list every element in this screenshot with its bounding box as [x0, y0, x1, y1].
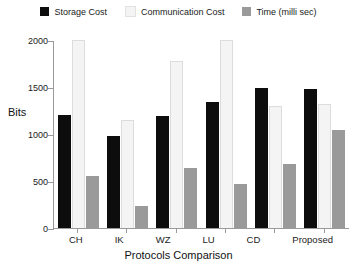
bar-series-container — [54, 41, 349, 228]
x-axis-tick-label: CD — [247, 234, 261, 245]
bar — [318, 104, 331, 228]
legend-label: Time (milli sec) — [256, 7, 316, 17]
legend-label: Storage Cost — [54, 7, 107, 17]
x-axis-tick-label: IK — [115, 234, 124, 245]
y-axis-tick-label: 2000 — [4, 37, 48, 46]
x-axis-tick — [77, 229, 78, 233]
bar — [121, 120, 134, 228]
y-axis-tick-label: 1000 — [4, 131, 48, 140]
x-axis-tick — [126, 229, 127, 233]
x-axis-tick-label: LU — [202, 234, 214, 245]
bar — [255, 88, 268, 228]
bar-group — [58, 41, 99, 228]
x-axis-tick — [176, 229, 177, 233]
bar — [184, 168, 197, 228]
legend-entry: Time (milli sec) — [242, 7, 316, 17]
bar-group — [304, 41, 345, 228]
bar-group — [156, 41, 197, 228]
plot-area — [53, 41, 349, 229]
bar — [304, 89, 317, 228]
bar — [220, 40, 233, 228]
bar — [156, 116, 169, 228]
x-axis-tick-label: CH — [69, 234, 83, 245]
legend-swatch-icon — [125, 6, 136, 17]
y-axis-tick-label: 0 — [4, 225, 48, 234]
bar — [72, 40, 85, 228]
bar — [135, 206, 148, 228]
bar — [206, 102, 219, 228]
bar — [170, 61, 183, 228]
legend-entry: Communication Cost — [125, 6, 225, 17]
bar — [269, 106, 282, 228]
y-axis-tick-label: 500 — [4, 178, 48, 187]
x-axis-tick — [274, 229, 275, 233]
bar-group — [255, 41, 296, 228]
legend-entry: Storage Cost — [40, 7, 107, 17]
x-axis-tick — [225, 229, 226, 233]
x-axis-title: Protocols Comparison — [0, 249, 357, 262]
bar-group — [206, 41, 247, 228]
y-axis-title: Bits — [8, 106, 26, 118]
legend-swatch-icon — [242, 7, 251, 16]
x-axis-tick-label: WZ — [156, 234, 171, 245]
bar — [107, 136, 120, 228]
bar — [234, 184, 247, 228]
bar — [58, 115, 71, 228]
bar-group — [107, 41, 148, 228]
bar — [283, 164, 296, 228]
bar — [332, 130, 345, 228]
y-axis-tick-labels: 0500100015002000 — [0, 0, 48, 268]
bar-chart-figure: Storage CostCommunication CostTime (mill… — [0, 0, 357, 268]
x-axis-ticks — [53, 229, 349, 233]
y-axis-tick-label: 1500 — [4, 84, 48, 93]
bar — [86, 176, 99, 228]
x-axis-tick-label: Proposed — [292, 234, 333, 245]
x-axis-tick-labels: CHIKWZLUCDProposed — [53, 234, 349, 245]
chart-legend: Storage CostCommunication CostTime (mill… — [0, 6, 357, 17]
legend-label: Communication Cost — [141, 7, 225, 17]
x-axis-tick — [324, 229, 325, 233]
